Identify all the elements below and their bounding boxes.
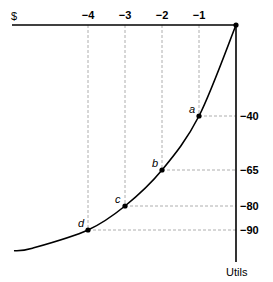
origin-point [233, 22, 238, 27]
y-tick-label: −90 [240, 224, 259, 236]
point-a [196, 113, 201, 118]
y-tick-label: −80 [240, 200, 259, 212]
utility-chart: $ Utils −4−3−2−1 −40−65−80−90 abcd [0, 0, 273, 282]
x-tick-label: −2 [156, 9, 169, 21]
y-axis-label: Utils [226, 266, 248, 278]
point-label-c: c [115, 193, 121, 205]
point-c [122, 203, 127, 208]
x-axis-label: $ [11, 10, 17, 22]
y-tick-label: −40 [240, 110, 259, 122]
point-b [159, 167, 164, 172]
x-tick-label: −1 [193, 9, 206, 21]
point-label-a: a [189, 103, 195, 115]
x-tick-label: −4 [82, 9, 95, 21]
point-label-b: b [152, 157, 158, 169]
x-tick-label: −3 [119, 9, 132, 21]
point-label-d: d [78, 217, 85, 229]
point-d [85, 227, 90, 232]
y-tick-label: −65 [240, 164, 259, 176]
